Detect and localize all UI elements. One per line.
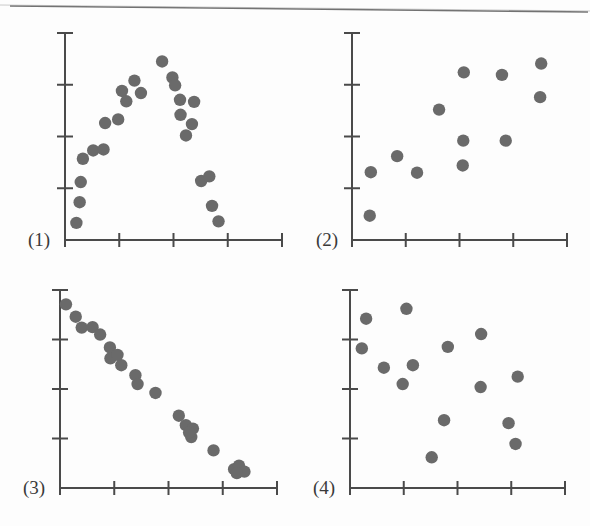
data-point bbox=[207, 444, 219, 456]
data-point bbox=[188, 96, 200, 108]
data-point bbox=[457, 134, 469, 146]
figure-canvas: (1)(2)(3)(4) bbox=[0, 0, 590, 526]
data-point bbox=[128, 74, 140, 86]
data-point bbox=[474, 381, 486, 393]
data-point bbox=[411, 167, 423, 179]
data-point bbox=[186, 118, 198, 130]
data-point bbox=[360, 313, 372, 325]
data-point bbox=[70, 217, 82, 229]
panel-label-1: (1) bbox=[28, 229, 50, 251]
data-point bbox=[396, 378, 408, 390]
data-point bbox=[442, 341, 454, 353]
data-point bbox=[203, 170, 215, 182]
data-point bbox=[174, 94, 186, 106]
data-point bbox=[509, 438, 521, 450]
data-point bbox=[391, 150, 403, 162]
data-point bbox=[458, 66, 470, 78]
data-point bbox=[378, 362, 390, 374]
data-point bbox=[183, 426, 195, 438]
data-point bbox=[502, 417, 514, 429]
data-point bbox=[135, 87, 147, 99]
data-point bbox=[364, 209, 376, 221]
data-point bbox=[438, 414, 450, 426]
data-point bbox=[156, 55, 168, 67]
panel-label-3: (3) bbox=[23, 477, 45, 499]
data-point bbox=[206, 200, 218, 212]
data-point bbox=[94, 328, 106, 340]
data-point bbox=[500, 134, 512, 146]
data-point bbox=[60, 298, 72, 310]
data-point bbox=[535, 57, 547, 69]
data-point bbox=[97, 143, 109, 155]
data-point bbox=[76, 321, 88, 333]
data-point bbox=[356, 342, 368, 354]
data-point bbox=[212, 215, 224, 227]
data-point bbox=[174, 109, 186, 121]
data-point bbox=[73, 196, 85, 208]
data-point bbox=[70, 311, 82, 323]
data-point bbox=[496, 69, 508, 81]
data-point bbox=[365, 166, 377, 178]
data-point bbox=[180, 129, 192, 141]
data-point bbox=[457, 159, 469, 171]
data-point bbox=[77, 153, 89, 165]
data-point bbox=[433, 103, 445, 115]
data-point bbox=[407, 359, 419, 371]
scatterplot-figure: (1)(2)(3)(4) bbox=[0, 0, 590, 526]
data-point bbox=[112, 113, 124, 125]
data-point bbox=[231, 467, 243, 479]
data-point bbox=[169, 79, 181, 91]
data-point bbox=[131, 378, 143, 390]
data-point bbox=[111, 349, 123, 361]
data-point bbox=[512, 370, 524, 382]
panel-label-2: (2) bbox=[316, 229, 338, 251]
data-point bbox=[120, 95, 132, 107]
panel-label-4: (4) bbox=[313, 477, 335, 499]
data-point bbox=[149, 387, 161, 399]
data-point bbox=[99, 117, 111, 129]
data-point bbox=[426, 451, 438, 463]
data-point bbox=[475, 328, 487, 340]
data-point bbox=[400, 303, 412, 315]
data-point bbox=[534, 91, 546, 103]
data-point bbox=[75, 176, 87, 188]
